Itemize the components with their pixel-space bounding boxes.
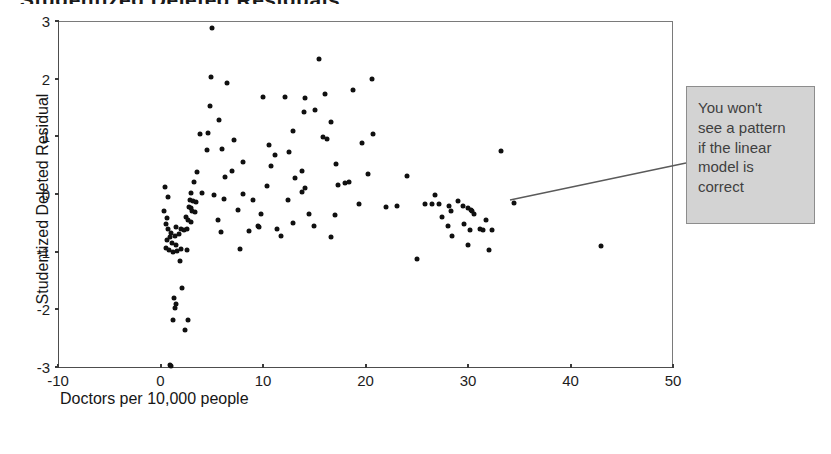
scatter-point	[185, 247, 190, 252]
scatter-point	[322, 92, 327, 97]
scatter-point	[384, 204, 389, 209]
scatter-point	[177, 259, 182, 264]
scatter-point	[216, 118, 221, 123]
x-tick-mark	[467, 364, 469, 368]
scatter-point	[170, 317, 175, 322]
scatter-point	[215, 217, 220, 222]
scatter-point	[448, 209, 453, 214]
scatter-point	[275, 226, 280, 231]
scatter-point	[171, 295, 176, 300]
scatter-point	[220, 147, 225, 152]
scatter-point	[292, 176, 297, 181]
x-tick-mark	[570, 364, 572, 368]
y-tick-mark	[55, 78, 59, 80]
scatter-point	[165, 226, 170, 231]
x-tick-mark	[262, 364, 264, 368]
scatter-point	[468, 227, 473, 232]
scatter-point	[236, 208, 241, 213]
scatter-point	[430, 202, 435, 207]
x-tick-label: 50	[665, 372, 682, 389]
scatter-point	[498, 149, 503, 154]
x-tick-label: 20	[357, 372, 374, 389]
scatter-point	[204, 148, 209, 153]
scatter-point	[162, 185, 167, 190]
figure-title-cropped: Studentized Deleted Residuals	[0, 0, 831, 4]
plot-area-frame	[58, 21, 673, 368]
scatter-point	[222, 197, 227, 202]
scatter-point	[194, 200, 199, 205]
scatter-point	[267, 142, 272, 147]
scatter-point	[279, 233, 284, 238]
scatter-point	[395, 203, 400, 208]
scatter-point	[176, 232, 181, 237]
annotation-callout: You won't see a pattern if the linear mo…	[686, 86, 815, 224]
scatter-point	[312, 223, 317, 228]
x-tick-label: 30	[460, 372, 477, 389]
scatter-point	[481, 227, 486, 232]
scatter-point	[449, 233, 454, 238]
scatter-point	[193, 210, 198, 215]
scatter-point	[307, 211, 312, 216]
scatter-point	[199, 190, 204, 195]
scatter-point	[512, 201, 517, 206]
scatter-point	[461, 221, 466, 226]
scatter-point	[333, 162, 338, 167]
scatter-point	[218, 230, 223, 235]
x-tick-label: 40	[562, 372, 579, 389]
y-tick-label: -3	[18, 359, 50, 376]
scatter-point	[189, 219, 194, 224]
scatter-point	[261, 94, 266, 99]
scatter-point	[286, 149, 291, 154]
scatter-point	[208, 74, 213, 79]
x-axis-label: Doctors per 10,000 people	[60, 390, 249, 408]
scatter-point	[238, 246, 243, 251]
scatter-point	[351, 87, 356, 92]
scatter-point	[472, 212, 477, 217]
scatter-point	[332, 213, 337, 218]
scatter-point	[185, 226, 190, 231]
scatter-point	[404, 174, 409, 179]
scatter-point	[223, 175, 228, 180]
scatter-point	[290, 220, 295, 225]
scatter-point	[258, 212, 263, 217]
x-tick-mark	[160, 364, 162, 368]
scatter-point	[303, 96, 308, 101]
scatter-point	[489, 227, 494, 232]
figure-canvas: Studentized Deleted Residuals 3210-1-2-3…	[0, 0, 831, 454]
scatter-point	[599, 244, 604, 249]
scatter-point	[302, 110, 307, 115]
scatter-point	[269, 164, 274, 169]
scatter-point	[335, 182, 340, 187]
scatter-point	[357, 202, 362, 207]
scatter-point	[282, 94, 287, 99]
y-tick-mark	[55, 20, 59, 22]
scatter-point	[183, 327, 188, 332]
annotation-callout-text: You won't see a pattern if the linear mo…	[698, 98, 805, 197]
scatter-point	[299, 168, 304, 173]
scatter-point	[240, 192, 245, 197]
x-tick-label: -10	[47, 372, 69, 389]
scatter-point	[246, 229, 251, 234]
scatter-point	[433, 193, 438, 198]
scatter-point	[179, 247, 184, 252]
y-tick-mark	[55, 251, 59, 253]
scatter-point	[250, 197, 255, 202]
scatter-point	[207, 103, 212, 108]
scatter-point	[180, 285, 185, 290]
scatter-point	[290, 128, 295, 133]
scatter-point	[273, 152, 278, 157]
scatter-point	[232, 137, 237, 142]
scatter-point	[440, 215, 445, 220]
y-tick-label: 3	[18, 13, 50, 30]
y-tick-mark	[55, 135, 59, 137]
x-tick-mark	[57, 364, 59, 368]
scatter-point	[437, 202, 442, 207]
y-tick-mark	[55, 193, 59, 195]
y-axis-label: Studentized Deleted Residual	[34, 49, 52, 349]
x-tick-mark	[365, 364, 367, 368]
scatter-point	[205, 130, 210, 135]
scatter-point	[369, 76, 374, 81]
scatter-point	[317, 57, 322, 62]
scatter-point	[265, 183, 270, 188]
scatter-point	[211, 192, 216, 197]
